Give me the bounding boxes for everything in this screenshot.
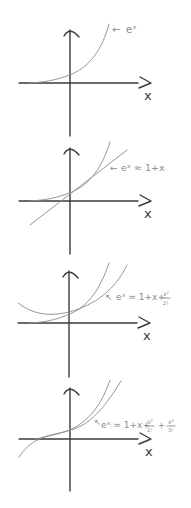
panel-quadratic: x ↖ eˣ ≈ 1+x+ x² 2! xyxy=(18,263,170,377)
curve-label-arrow: ↖ xyxy=(105,292,113,302)
curve-label: eˣ ≈ 1+x+ xyxy=(116,292,165,302)
x-axis-arrowhead xyxy=(139,195,151,206)
x-axis-label: x xyxy=(145,444,153,459)
curve-label-arrow: ← xyxy=(112,24,120,35)
fraction-numerator: x² xyxy=(163,290,170,297)
y-axis-arrowhead xyxy=(64,149,79,155)
panel-cubic: x ↖ eˣ ≈ 1+x+ x² 2! + x³ 3! xyxy=(19,380,175,491)
curve-label-arrow: ← xyxy=(110,163,118,173)
x-axis-arrowhead xyxy=(138,317,150,328)
x-axis-label: x xyxy=(144,88,152,103)
x-axis-arrowhead xyxy=(139,433,151,444)
linear-approx-line xyxy=(30,150,127,225)
exp-curve xyxy=(35,380,110,439)
panel-exp: x ← eˣ xyxy=(19,24,152,136)
y-axis-arrowhead xyxy=(63,272,78,278)
fraction-denominator: 2! xyxy=(163,300,168,306)
taylor-diagram: x ← eˣ x ← eˣ ≈ 1+x x ↖ eˣ ≈ 1+x+ x² 2! xyxy=(0,0,191,508)
curve-label: eˣ ≈ 1+x+ xyxy=(101,420,150,430)
curve-label-arrow: ↖ xyxy=(94,418,101,427)
y-axis-arrowhead xyxy=(64,31,79,37)
x-axis-arrowhead xyxy=(139,77,151,88)
fraction-denominator: 2! xyxy=(147,427,152,433)
x-axis-label: x xyxy=(144,206,152,221)
x-axis-label: x xyxy=(143,328,151,343)
y-axis-arrowhead xyxy=(64,389,79,395)
fraction2-numerator: x³ xyxy=(168,418,175,425)
curve-label: eˣ ≈ 1+x xyxy=(121,162,165,173)
curve-label: eˣ xyxy=(126,24,137,35)
panel-linear: x ← eˣ ≈ 1+x xyxy=(19,142,165,254)
plus-sign: + xyxy=(158,421,165,430)
fraction2-denominator: 3! xyxy=(168,427,173,433)
fraction-numerator: x² xyxy=(147,418,154,425)
